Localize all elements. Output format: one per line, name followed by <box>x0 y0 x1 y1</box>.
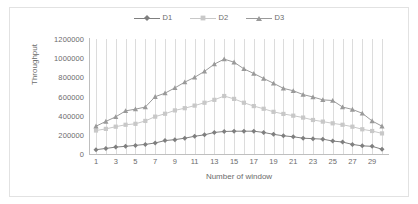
y-axis-ticks: 020000040000060000080000010000001200000 <box>36 0 84 204</box>
data-point-marker <box>340 140 345 145</box>
data-point-marker <box>222 57 227 62</box>
data-point-marker <box>310 136 315 141</box>
data-point-marker <box>162 91 167 96</box>
data-point-marker <box>261 76 266 81</box>
series-line <box>96 131 382 150</box>
data-point-marker <box>113 145 118 150</box>
y-tick-label: 1000000 <box>38 54 84 63</box>
x-tick-label: 9 <box>173 157 177 166</box>
data-point-marker <box>133 143 138 148</box>
series-layer <box>90 39 388 154</box>
data-point-marker <box>192 134 197 139</box>
x-tick-label: 3 <box>114 157 118 166</box>
data-point-marker <box>104 127 108 131</box>
data-point-marker <box>281 133 286 138</box>
x-tick-label: 21 <box>289 157 297 166</box>
data-point-marker <box>330 139 335 144</box>
x-tick-label: 7 <box>153 157 157 166</box>
data-point-marker <box>370 129 374 133</box>
chart-container: D1 D2 D3 0200000400000600000800000100000… <box>0 0 418 204</box>
data-point-marker <box>311 118 315 122</box>
data-point-marker <box>252 104 256 108</box>
data-point-marker <box>271 132 276 137</box>
data-point-marker <box>103 146 108 151</box>
data-point-marker <box>192 75 197 80</box>
data-point-marker <box>153 140 158 145</box>
y-axis-title: Throughput <box>30 28 39 102</box>
plot-area <box>90 39 388 154</box>
data-point-marker <box>222 94 226 98</box>
data-point-marker <box>370 144 375 149</box>
data-point-marker <box>123 144 128 149</box>
x-tick-label: 25 <box>329 157 337 166</box>
data-point-marker <box>114 125 118 129</box>
data-point-marker <box>241 129 246 134</box>
series-d2 <box>94 94 384 136</box>
data-point-marker <box>173 108 177 112</box>
x-tick-label: 15 <box>230 157 238 166</box>
data-point-marker <box>163 112 167 116</box>
x-tick-label: 19 <box>269 157 277 166</box>
data-point-marker <box>321 120 325 124</box>
data-point-marker <box>301 115 305 119</box>
data-point-marker <box>281 112 285 116</box>
y-tick-label: 200000 <box>38 131 84 140</box>
series-d1 <box>94 129 385 153</box>
data-point-marker <box>350 142 355 147</box>
x-axis-ticks: 1357911131517192123252729 <box>90 157 388 169</box>
data-point-marker <box>360 143 365 148</box>
y-tick-label: 1200000 <box>38 35 84 44</box>
data-point-marker <box>242 101 246 105</box>
data-point-marker <box>94 147 99 152</box>
data-point-marker <box>143 142 148 147</box>
data-point-marker <box>291 114 295 118</box>
data-point-marker <box>202 101 206 105</box>
x-axis-line <box>89 154 389 155</box>
data-point-marker <box>261 130 266 135</box>
data-point-marker <box>340 104 345 109</box>
data-point-marker <box>183 106 187 110</box>
data-point-marker <box>360 127 364 131</box>
data-point-marker <box>113 114 118 119</box>
y-tick-label: 0 <box>38 150 84 159</box>
data-point-marker <box>271 81 276 86</box>
x-tick-label: 5 <box>133 157 137 166</box>
data-point-marker <box>172 137 177 142</box>
data-point-marker <box>93 124 98 129</box>
x-tick-label: 1 <box>94 157 98 166</box>
data-point-marker <box>182 80 187 85</box>
data-point-marker <box>241 66 246 71</box>
data-point-marker <box>222 129 227 134</box>
data-point-marker <box>133 122 137 126</box>
data-point-marker <box>251 129 256 134</box>
data-point-marker <box>202 132 207 137</box>
data-point-marker <box>320 137 325 142</box>
data-point-marker <box>380 147 385 152</box>
data-point-marker <box>212 98 216 102</box>
data-point-marker <box>143 119 147 123</box>
x-axis-title: Number of window <box>90 172 388 181</box>
data-point-marker <box>193 104 197 108</box>
data-point-marker <box>262 107 266 111</box>
data-point-marker <box>172 85 177 90</box>
series-d3 <box>93 57 384 129</box>
data-point-marker <box>291 134 296 139</box>
data-point-marker <box>212 62 217 67</box>
data-point-marker <box>232 129 237 134</box>
series-line <box>96 96 382 133</box>
series-line <box>96 59 382 126</box>
x-tick-label: 17 <box>250 157 258 166</box>
y-tick-label: 400000 <box>38 112 84 121</box>
data-point-marker <box>251 71 256 76</box>
y-tick-label: 800000 <box>38 73 84 82</box>
x-tick-label: 11 <box>191 157 199 166</box>
x-tick-label: 27 <box>348 157 356 166</box>
data-point-marker <box>153 115 157 119</box>
x-tick-label: 29 <box>368 157 376 166</box>
data-point-marker <box>94 128 98 132</box>
data-point-marker <box>163 138 168 143</box>
data-point-marker <box>182 136 187 141</box>
data-point-marker <box>271 110 275 114</box>
x-tick-label: 23 <box>309 157 317 166</box>
data-point-marker <box>301 136 306 141</box>
